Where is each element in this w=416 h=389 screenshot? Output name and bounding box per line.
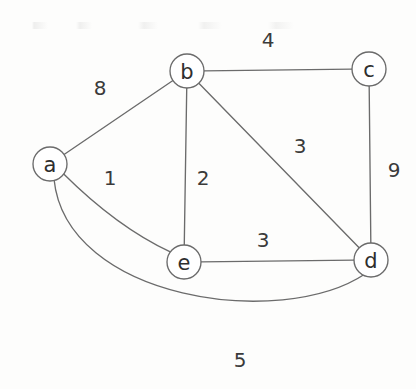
node-e: e bbox=[167, 245, 201, 279]
edge-e-d bbox=[201, 260, 354, 262]
node-d: d bbox=[354, 243, 388, 277]
node-label-b: b bbox=[180, 60, 193, 84]
edge-weight-b-e: 2 bbox=[197, 166, 210, 190]
edge-b-e bbox=[184, 88, 186, 245]
edge-weight-b-c: 4 bbox=[262, 28, 275, 52]
edge-a-b bbox=[64, 81, 173, 155]
edge-b-d bbox=[199, 83, 359, 248]
edge-b-c bbox=[204, 69, 352, 71]
edge-a-e bbox=[64, 174, 171, 252]
edge-weight-c-d: 9 bbox=[388, 158, 401, 182]
node-c: c bbox=[352, 52, 386, 86]
graph-figure: 8 4 9 3 2 1 3 5 a b c d bbox=[0, 0, 416, 389]
node-b: b bbox=[170, 54, 204, 88]
node-label-d: d bbox=[364, 249, 377, 273]
node-label-c: c bbox=[363, 58, 375, 82]
node-label-a: a bbox=[44, 153, 57, 177]
edge-layer bbox=[54, 69, 371, 301]
edge-a-d bbox=[54, 179, 365, 301]
edge-weight-b-d: 3 bbox=[294, 134, 307, 158]
edge-c-d bbox=[369, 86, 371, 243]
node-a: a bbox=[33, 147, 67, 181]
edge-weight-a-b: 8 bbox=[94, 76, 107, 100]
edge-weight-a-d: 5 bbox=[234, 348, 247, 372]
edge-weight-a-e: 1 bbox=[104, 166, 117, 190]
edge-weight-e-d: 3 bbox=[257, 228, 270, 252]
node-label-e: e bbox=[178, 251, 191, 275]
graph-canvas: 8 4 9 3 2 1 3 5 a b c d bbox=[0, 0, 416, 389]
edge-weight-layer: 8 4 9 3 2 1 3 5 bbox=[94, 28, 401, 372]
